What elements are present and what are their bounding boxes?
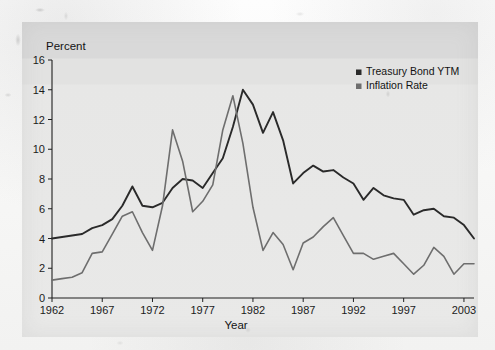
chart-legend: Treasury Bond YTMInflation Rate <box>356 65 459 91</box>
x-axis-tick-label: 1982 <box>241 304 265 316</box>
y-axis-tick-label: 12 <box>33 114 45 126</box>
x-axis-tick-label: 2003 <box>452 304 476 316</box>
y-axis-tick-label: 8 <box>39 173 45 185</box>
y-axis-tick-label: 6 <box>39 203 45 215</box>
y-axis-tick-label: 16 <box>33 54 45 66</box>
x-axis-tick-label: 1977 <box>190 304 214 316</box>
x-axis-tick-label: 1997 <box>391 304 415 316</box>
y-axis-ticks <box>48 60 52 298</box>
x-axis-tick-label: 1962 <box>40 304 64 316</box>
square-marker-dark <box>356 70 362 76</box>
legend-item-label: Treasury Bond YTM <box>366 65 459 77</box>
x-axis-ticks <box>52 298 464 302</box>
y-axis-tick-label: 0 <box>39 292 45 304</box>
y-axis-tick-label: 4 <box>39 233 45 245</box>
x-axis-tick-label: 1987 <box>291 304 315 316</box>
square-marker-gray <box>356 84 362 90</box>
series-lines-group <box>52 90 474 280</box>
y-axis-tick-label: 14 <box>33 84 45 96</box>
x-axis-title: Year <box>224 319 247 331</box>
x-axis-tick-label: 1972 <box>140 304 164 316</box>
x-axis-tick-label: 1967 <box>90 304 114 316</box>
series-line-2 <box>52 96 474 280</box>
x-axis-tick-label: 1992 <box>341 304 365 316</box>
legend-item-label: Inflation Rate <box>366 79 428 91</box>
series-line-1 <box>52 90 474 239</box>
y-axis-title: Percent <box>46 40 86 52</box>
y-axis-tick-label: 10 <box>33 143 45 155</box>
y-axis-tick-label: 2 <box>39 262 45 274</box>
x-axis-tick-labels: 196219671972197719821987199219972003 <box>40 304 476 316</box>
y-axis-tick-labels: 0246810121416 <box>33 54 45 304</box>
line-chart: Percent 0246810121416 196219671972197719… <box>0 0 495 350</box>
